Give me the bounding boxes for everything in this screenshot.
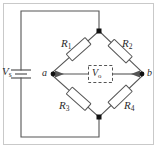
output-voltage-label: Vo — [92, 68, 102, 80]
resistor-label-r2: R2 — [122, 38, 132, 51]
resistor-body-r3 — [66, 87, 91, 110]
battery-symbol — [11, 70, 31, 78]
resistor-label-r4-symbol: R — [124, 99, 131, 111]
node-dot-b — [140, 72, 145, 77]
resistor-label-r1: R1 — [61, 38, 71, 51]
node-label-b: b — [147, 68, 152, 78]
resistor-label-r4-subscript: 4 — [131, 104, 135, 113]
arrowhead-right — [131, 71, 140, 78]
arrowhead-left — [55, 71, 64, 78]
resistor-label-r3-subscript: 3 — [66, 104, 70, 113]
source-label: Vs — [2, 66, 12, 79]
resistor-label-r1-subscript: 1 — [68, 42, 72, 51]
circuit-schematic-svg — [0, 0, 157, 148]
resistor-label-r3-symbol: R — [59, 99, 66, 111]
circuit-diagram-figure: Vs a b Vo R1 R2 R3 R4 — [0, 0, 157, 148]
source-label-subscript: s — [9, 70, 12, 79]
source-label-symbol: V — [2, 65, 9, 77]
output-voltage-subscript: o — [98, 72, 101, 79]
resistor-label-r2-subscript: 2 — [129, 42, 133, 51]
node-dot-bottom — [97, 115, 102, 120]
node-label-a: a — [42, 68, 47, 78]
resistor-label-r4: R4 — [124, 100, 134, 113]
resistor-label-r2-symbol: R — [122, 37, 129, 49]
resistor-label-r3: R3 — [59, 100, 69, 113]
node-dot-top — [97, 29, 102, 34]
resistor-label-r1-symbol: R — [61, 37, 68, 49]
node-dot-a — [51, 72, 56, 77]
